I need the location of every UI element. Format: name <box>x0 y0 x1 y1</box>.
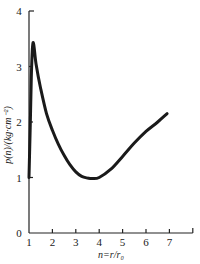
x-tick-label: 1 <box>26 236 32 248</box>
line-chart: 012341234567 p(n)/(kg·cm⁻²) n=r/r₀ <box>0 0 200 264</box>
pressure-curve <box>29 42 167 178</box>
x-tick-label: 5 <box>120 236 126 248</box>
chart-axes <box>29 11 193 233</box>
y-axis-label: p(n)/(kg·cm⁻²) <box>2 105 14 164</box>
axis-ticks: 012341234567 <box>16 5 172 248</box>
x-tick-label: 2 <box>50 236 56 248</box>
y-tick-label: 4 <box>16 5 22 17</box>
x-tick-label: 6 <box>143 236 149 248</box>
x-tick-label: 3 <box>73 236 79 248</box>
y-tick-label: 1 <box>16 172 22 184</box>
x-axis-label: n=r/r₀ <box>98 249 124 260</box>
y-tick-label: 3 <box>16 61 22 73</box>
y-tick-label: 2 <box>16 116 22 128</box>
x-tick-label: 4 <box>96 236 102 248</box>
y-tick-label: 0 <box>16 227 22 239</box>
x-tick-label: 7 <box>167 236 173 248</box>
